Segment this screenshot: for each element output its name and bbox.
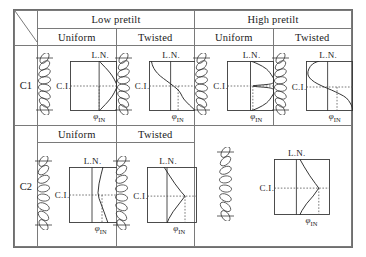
x-axis-label: φIN (250, 112, 262, 123)
panel-c1-low-twisted: L.N.C.I.φIN (116, 46, 195, 126)
director-chain (35, 156, 52, 234)
panel-c2-low-twisted: L.N.C.I.φIN (116, 143, 195, 247)
phi-profile-plot (306, 61, 353, 111)
phi-subscript: IN (177, 116, 184, 123)
plot-wrapper: L.N.C.I.φIN (135, 50, 196, 121)
subcolumn-high-uniform-label: Uniform (215, 32, 253, 43)
director-chain-diagram (272, 53, 289, 115)
table-header-row-groups: Low pretilt High pretilt (15, 11, 352, 29)
corner-cell (15, 11, 38, 46)
panel-content: L.N.C.I.φIN (195, 46, 273, 125)
director-chain-diagram (193, 53, 210, 115)
x-axis-label: φIN (306, 216, 318, 227)
chevron-interface-label: C.I. (135, 82, 150, 91)
director-chain-diagram (113, 156, 130, 230)
phi-subscript: IN (334, 116, 341, 123)
panel-content: L.N.C.I.φIN (38, 46, 116, 125)
director-chain (272, 53, 289, 119)
director-chain (36, 53, 53, 119)
phi-subscript: IN (310, 219, 317, 226)
panel-content: L.N.C.I.φIN (117, 46, 195, 125)
director-chain (113, 156, 130, 234)
director-chain (217, 147, 234, 225)
director-chain-diagram (217, 147, 234, 221)
column-group-high-pretilt: High pretilt (195, 11, 352, 29)
plot-wrapper: L.N.C.I.φIN (292, 50, 353, 121)
panel-c2-high-merged: L.N.C.I.φIN (195, 126, 352, 247)
phi-subscript: IN (255, 116, 262, 123)
subcolumn-c2-low-uniform: Uniform (38, 126, 117, 143)
panel-content: L.N.C.I.φIN (38, 143, 116, 246)
layer-normal-label: L.N. (159, 157, 177, 166)
comparison-table: Low pretilt High pretilt Uniform Twisted… (14, 10, 352, 247)
column-group-low-pretilt-label: Low pretilt (91, 14, 140, 25)
x-axis-label: φIN (95, 224, 107, 235)
layer-normal-label: L.N. (162, 51, 180, 60)
table-subheader-row-c2: C2 Uniform Twisted L.N.C.I.φIN (15, 126, 352, 143)
phi-profile-plot (69, 167, 119, 223)
panel-content: L.N.C.I.φIN (195, 126, 351, 246)
chevron-interface-label: C.I. (260, 184, 275, 193)
panel-c1-high-twisted: L.N.C.I.φIN (273, 46, 352, 126)
layer-normal-label: L.N. (84, 157, 102, 166)
director-chain (115, 53, 132, 119)
chevron-interface-label: C.I. (292, 83, 307, 92)
row-label-c1-text: C1 (20, 80, 32, 91)
phi-subscript: IN (178, 228, 185, 235)
phi-profile-plot (274, 159, 330, 215)
panel-c1-low-uniform: L.N.C.I.φIN (38, 46, 117, 126)
director-chain-diagram (35, 156, 52, 230)
subcolumn-high-twisted: Twisted (273, 29, 352, 46)
subcolumn-low-uniform-label: Uniform (58, 32, 96, 43)
phi-profile-plot (147, 167, 197, 223)
layer-normal-label: L.N. (319, 51, 337, 60)
plot-wrapper: L.N.C.I.φIN (56, 50, 117, 121)
layer-normal-label: L.N. (288, 149, 306, 158)
table-row-c1: C1 L.N.C.I.φIN L.N.C.I.φIN L.N.C.I.φIN L… (15, 46, 352, 126)
subcolumn-high-twisted-label: Twisted (295, 32, 330, 43)
director-chain-diagram (36, 53, 53, 115)
phi-profile-plot (70, 61, 117, 111)
diagonal-slash-icon (15, 11, 37, 42)
table-header-row-subcolumns: Uniform Twisted Uniform Twisted (15, 29, 352, 46)
plot-wrapper: L.N.C.I.φIN (213, 50, 274, 121)
row-label-c2-text: C2 (20, 181, 32, 192)
chevron-interface-label: C.I. (55, 191, 70, 200)
figure-container: Low pretilt High pretilt Uniform Twisted… (13, 9, 353, 248)
plot-wrapper: L.N.C.I.φIN (260, 148, 330, 225)
row-label-c1: C1 (15, 46, 38, 126)
phi-subscript: IN (100, 228, 107, 235)
x-axis-label: φIN (172, 112, 184, 123)
layer-normal-label: L.N. (91, 51, 109, 60)
panel-c2-low-uniform: L.N.C.I.φIN (38, 143, 117, 247)
subcolumn-c2-low-twisted: Twisted (116, 126, 195, 143)
plot-wrapper: L.N.C.I.φIN (55, 156, 119, 233)
x-axis-label: φIN (173, 224, 185, 235)
chevron-interface-label: C.I. (133, 192, 148, 201)
subcolumn-low-twisted-label: Twisted (138, 32, 173, 43)
panel-c1-high-uniform: L.N.C.I.φIN (195, 46, 274, 126)
x-axis-label: φIN (93, 112, 105, 123)
subcolumn-c2-low-uniform-label: Uniform (58, 129, 96, 140)
subcolumn-low-uniform: Uniform (38, 29, 117, 46)
layer-normal-label: L.N. (243, 51, 261, 60)
x-axis-label: φIN (329, 112, 341, 123)
chevron-interface-label: C.I. (56, 82, 71, 91)
column-group-low-pretilt: Low pretilt (38, 11, 195, 29)
panel-content: L.N.C.I.φIN (117, 143, 195, 246)
director-chain-diagram (115, 53, 132, 115)
panel-content: L.N.C.I.φIN (274, 46, 352, 125)
plot-wrapper: L.N.C.I.φIN (133, 156, 197, 233)
subcolumn-high-uniform: Uniform (195, 29, 274, 46)
director-chain (193, 53, 210, 119)
subcolumn-c2-low-twisted-label: Twisted (138, 129, 173, 140)
phi-subscript: IN (98, 116, 105, 123)
chevron-interface-label: C.I. (213, 82, 228, 91)
subcolumn-low-twisted: Twisted (116, 29, 195, 46)
column-group-high-pretilt-label: High pretilt (247, 14, 298, 25)
phi-profile-plot (227, 61, 274, 111)
phi-profile-plot (149, 61, 196, 111)
